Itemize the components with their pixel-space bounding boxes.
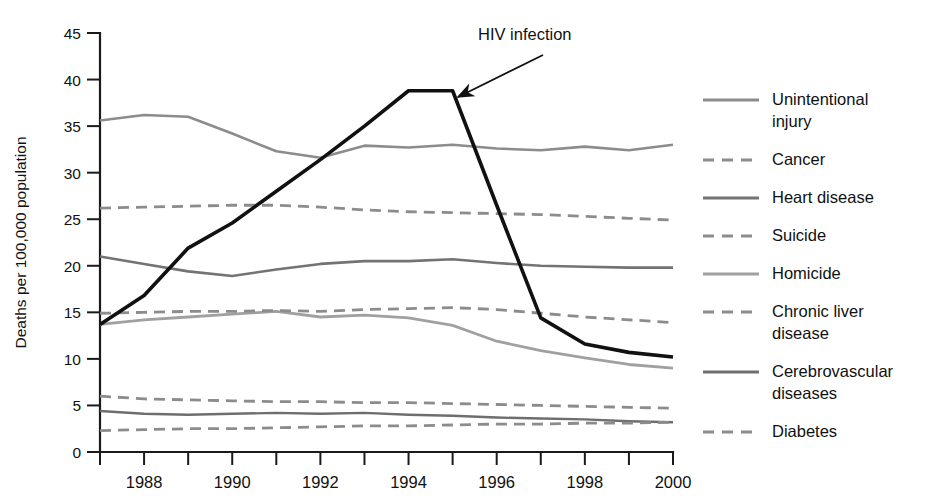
legend-label-cont: diseases (772, 384, 837, 402)
x-tick-label: 1998 (566, 473, 603, 491)
legend-label: Suicide (772, 226, 826, 244)
x-tick-label: 2000 (655, 473, 692, 491)
series-lines (100, 91, 673, 431)
legend-label-cont: injury (772, 112, 812, 130)
legend-label: Homicide (772, 264, 841, 282)
legend-label: Diabetes (772, 422, 837, 440)
y-tick-label: 0 (72, 444, 81, 461)
y-tick-label: 45 (64, 25, 81, 42)
y-tick-label: 35 (64, 118, 81, 135)
series-line (100, 115, 673, 158)
y-tick-label: 40 (64, 72, 82, 89)
legend-label-cont: disease (772, 324, 829, 342)
series-line (100, 205, 673, 220)
series-line (100, 422, 673, 430)
legend-label: Unintentional (772, 90, 868, 108)
chart-legend: UnintentionalinjuryCancerHeart diseaseSu… (703, 90, 894, 440)
chart-annotations: HIV infection (458, 25, 572, 97)
annotation-arrow (458, 55, 543, 97)
legend-label: Cancer (772, 150, 826, 168)
x-tick-label: 1988 (126, 473, 163, 491)
series-line (100, 311, 673, 368)
y-tick-label: 15 (64, 304, 81, 321)
annotation-label: HIV infection (478, 25, 572, 43)
x-tick-label: 1994 (390, 473, 427, 491)
series-line (100, 396, 673, 408)
axis-lines (100, 33, 673, 452)
y-tick-label: 20 (64, 258, 82, 275)
x-tick-label: 1992 (302, 473, 339, 491)
y-axis-title: Deaths per 100,000 population (12, 137, 29, 349)
y-tick-label: 10 (64, 351, 82, 368)
chart-root: 0510152025303540451988199019921994199619… (0, 0, 931, 500)
y-tick-label: 5 (72, 397, 81, 414)
series-line (100, 411, 673, 422)
y-tick-label: 30 (64, 165, 82, 182)
x-tick-label: 1990 (214, 473, 251, 491)
y-tick-label: 25 (64, 211, 81, 228)
series-line (100, 256, 673, 276)
legend-label: Cerebrovascular (772, 362, 894, 380)
line-chart: 0510152025303540451988199019921994199619… (0, 0, 931, 500)
legend-label: Heart disease (772, 188, 874, 206)
legend-label: Chronic liver (772, 302, 864, 320)
x-tick-label: 1996 (478, 473, 515, 491)
